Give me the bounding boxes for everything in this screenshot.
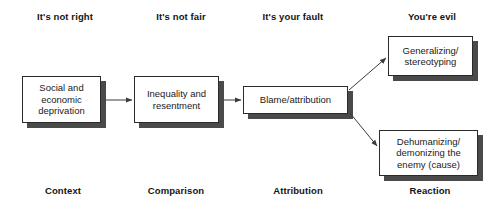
arrow-blame-to-generalizing [349,58,386,90]
phase-label-its-not-fair: It's not fair [146,11,216,22]
node-label-inequality-resentment: Inequality and resentment [144,88,209,111]
node-inequality-resentment: Inequality and resentment [134,76,219,123]
stage-label-reaction: Reaction [404,185,456,196]
stage-label-attribution: Attribution [267,185,329,196]
node-label-social-economic-deprivation: Social and economic deprivation [35,82,87,117]
node-label-blame-attribution: Blame/attribution [257,94,334,106]
phase-label-its-not-right: It's not right [28,11,102,22]
node-label-generalizing-stereotyping: Generalizing/ stereotyping [400,45,462,68]
arrow-blame-to-dehumanizing [350,113,377,146]
stage-label-comparison: Comparison [142,185,210,196]
phase-label-its-your-fault: It's your fault [253,11,333,22]
node-dehumanizing-demonizing: Dehumanizing/ demonizing the enemy (caus… [379,130,478,176]
node-generalizing-stereotyping: Generalizing/ stereotyping [388,36,473,76]
diagram-canvas: It's not right It's not fair It's your f… [0,0,503,209]
node-social-economic-deprivation: Social and economic deprivation [22,76,101,123]
phase-label-youre-evil: You're evil [399,11,465,22]
node-label-dehumanizing-demonizing: Dehumanizing/ demonizing the enemy (caus… [393,136,463,171]
stage-label-context: Context [38,185,88,196]
node-blame-attribution: Blame/attribution [243,86,348,114]
